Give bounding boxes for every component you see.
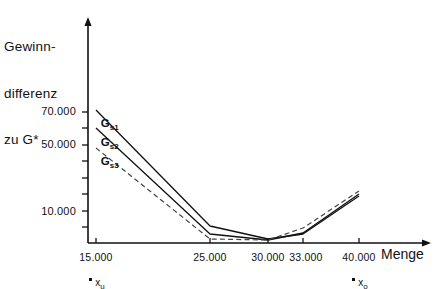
series-line-gs3 bbox=[96, 148, 359, 240]
upper-bound-subscript: o bbox=[363, 282, 367, 289]
x-axis bbox=[88, 239, 431, 246]
y-axis-title-line-2: differenz bbox=[4, 86, 57, 102]
curve-label-gs3-sub: s3 bbox=[110, 161, 119, 170]
x-tick-label-33000: 33.000 bbox=[276, 251, 336, 263]
lower-bound-marker: xu bbox=[78, 265, 105, 289]
y-tick-label-50000: 50.000 bbox=[24, 138, 76, 151]
upper-bound-marker: xo bbox=[341, 265, 368, 289]
curve-label-gs3: Gs3 bbox=[88, 142, 119, 182]
y-axis-title: Gewinn- differenz zu G* bbox=[4, 8, 57, 179]
upper-bound-dot-icon bbox=[352, 278, 355, 281]
x-tick-label-40000: 40.000 bbox=[329, 251, 389, 263]
y-tick-label-10000: 10.000 bbox=[24, 205, 76, 218]
curve-label-gs3-text: G bbox=[101, 155, 110, 167]
chart-container: Gewinn- differenz zu G* 70.000 50.000 10… bbox=[0, 0, 446, 289]
lower-bound-dot-icon bbox=[89, 278, 92, 281]
lower-bound-subscript: u bbox=[100, 282, 104, 289]
x-axis-title: Menge bbox=[381, 246, 424, 262]
x-tick-label-25000: 25.000 bbox=[180, 251, 240, 263]
x-tick-label-15000: 15.000 bbox=[66, 251, 126, 263]
y-axis-title-line-1: Gewinn- bbox=[4, 39, 57, 55]
y-tick-label-70000: 70.000 bbox=[24, 105, 76, 118]
series-line-gs1 bbox=[96, 110, 359, 239]
